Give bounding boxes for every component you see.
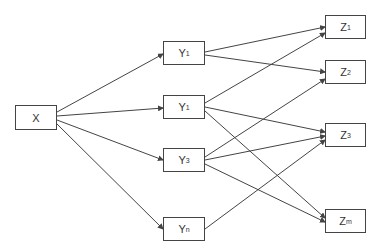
node-label: Y [178, 154, 185, 166]
node-z3: Z3 [325, 123, 366, 147]
edge-yn-z3 [205, 140, 325, 229]
node-zm: Zm [325, 209, 366, 233]
edge-x-y2 [57, 108, 163, 116]
edge-y3-zm [205, 164, 325, 222]
node-label: Y [178, 47, 185, 59]
node-subscript: 2 [347, 69, 351, 76]
edge-y2-z1 [205, 33, 325, 103]
edge-x-y1 [57, 54, 163, 112]
node-label: Z [339, 215, 346, 227]
edge-y1-z2 [205, 55, 325, 72]
node-y2: Y1 [163, 95, 205, 119]
node-subscript: 1 [347, 24, 351, 31]
node-subscript: n [186, 226, 190, 233]
edge-y1-z1 [205, 27, 325, 52]
node-label: Z [340, 129, 347, 141]
node-z2: Z2 [325, 60, 366, 84]
node-subscript: m [346, 218, 352, 225]
node-subscript: 1 [186, 104, 190, 111]
node-label: Y [178, 101, 185, 113]
node-x: X [15, 105, 57, 130]
node-z1: Z1 [325, 15, 366, 39]
node-label: Y [178, 223, 185, 235]
edge-y3-z2 [205, 79, 325, 157]
node-subscript: 1 [186, 50, 190, 57]
node-label: Z [340, 21, 347, 33]
node-subscript: 3 [347, 132, 351, 139]
node-label: X [32, 112, 39, 124]
node-y1: Y1 [163, 41, 205, 65]
edge-y3-z3 [205, 136, 325, 160]
edge-y2-zm [205, 111, 325, 218]
node-subscript: 3 [186, 157, 190, 164]
node-y3: Y3 [163, 148, 205, 172]
node-label: Z [340, 66, 347, 78]
node-yn: Yn [163, 217, 205, 241]
edge-y2-z3 [205, 107, 325, 132]
